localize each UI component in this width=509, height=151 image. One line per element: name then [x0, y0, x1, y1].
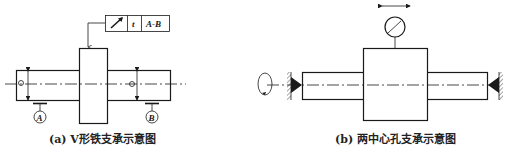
diagram-canvas: t A-B A B (a) V形铁支承示意图	[0, 0, 509, 151]
leader-line	[88, 23, 105, 47]
center-mark-left	[19, 81, 24, 86]
datum-b-label: B	[148, 113, 155, 123]
disc-a	[80, 49, 108, 124]
datum-a: A	[33, 104, 47, 124]
dial-indicator-icon	[382, 6, 410, 48]
datum-a-label: A	[36, 113, 43, 123]
figure-b-center-support: (b) 两中心孔支承示意图	[258, 6, 503, 146]
left-center-support-icon	[287, 72, 302, 100]
figure-a-v-block-support: t A-B A B (a) V形铁支承示意图	[5, 16, 186, 147]
datum-b: B	[145, 104, 159, 124]
datum-reference: A-B	[145, 19, 161, 29]
right-center-support-icon	[488, 72, 503, 100]
runout-arrow-icon	[111, 17, 123, 28]
caption-a: (a) V形铁支承示意图	[49, 132, 156, 146]
tolerance-frame: t A-B	[106, 16, 170, 32]
tolerance-value: t	[132, 19, 135, 29]
block-b	[364, 49, 428, 121]
caption-b: (b) 两中心孔支承示意图	[335, 132, 456, 146]
rotation-icon	[258, 73, 272, 95]
